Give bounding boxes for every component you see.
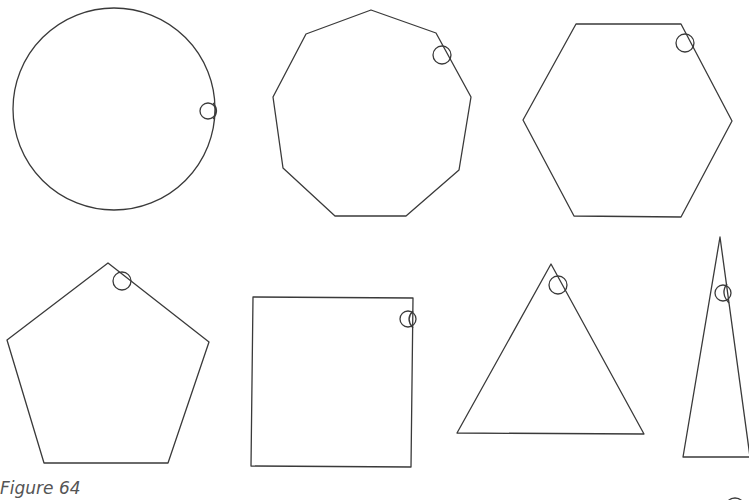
nonagon-shape (273, 10, 471, 216)
triangle-shape (457, 264, 644, 434)
small-circle-marker (400, 311, 416, 328)
small-circle-marker (549, 276, 567, 294)
figure-canvas (0, 0, 749, 500)
figure-caption: Figure 64 (0, 478, 81, 498)
circle-shape (13, 8, 217, 210)
narrow-triangle-shape (683, 237, 749, 457)
square-shape (251, 297, 416, 467)
small-circle-marker (200, 103, 217, 119)
hexagon-shape (523, 24, 732, 217)
pentagon-shape (7, 263, 209, 463)
